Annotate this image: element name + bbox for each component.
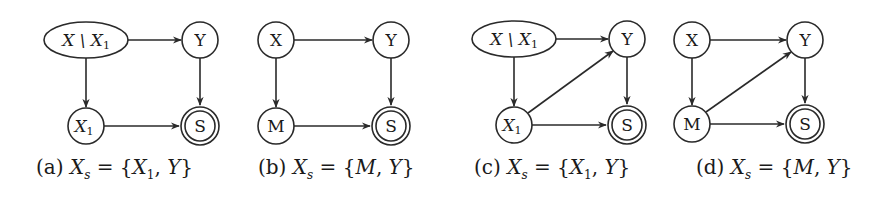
node-x-minus-x1-label: X \ X xyxy=(488,29,532,49)
node-y-label: Y xyxy=(384,30,397,50)
node-x-label: X xyxy=(270,30,283,50)
node-s-label: S xyxy=(621,115,633,135)
node-y-label: Y xyxy=(798,30,811,50)
node-y-label: Y xyxy=(193,30,206,50)
caption-panel-d: (d) Xs = {M, Y} xyxy=(696,155,853,182)
node-s-label: S xyxy=(799,114,811,134)
caption-panel-c: (c) Xs = {X1, Y} xyxy=(474,155,630,182)
node-y-label: Y xyxy=(620,29,633,49)
panel-a-graph: X \ X1 Y X1 S xyxy=(44,22,219,145)
node-m-label: M xyxy=(267,116,284,136)
panel-d-graph: X Y M S xyxy=(674,22,824,143)
node-m-label: M xyxy=(683,114,700,134)
edge-x1-to-y xyxy=(528,51,613,113)
node-s-label: S xyxy=(385,116,397,136)
edge-m-to-y xyxy=(706,52,791,112)
node-s-label: S xyxy=(194,116,206,136)
node-x1-label: X xyxy=(500,115,515,135)
caption-panel-b: (b) Xs = {M, Y} xyxy=(258,155,415,182)
node-x1-label: X xyxy=(72,116,87,136)
node-x-label: X xyxy=(686,30,699,50)
panel-b-graph: X Y M S xyxy=(258,22,410,145)
svg-text:X \ X1: X \ X1 xyxy=(60,30,110,52)
svg-text:X \ X1: X \ X1 xyxy=(488,29,538,51)
node-x-minus-x1-label: X \ X xyxy=(60,30,104,50)
caption-panel-a: (a) Xs = {X1, Y} xyxy=(36,155,193,182)
panel-c-graph: X \ X1 Y X1 S xyxy=(472,21,646,144)
